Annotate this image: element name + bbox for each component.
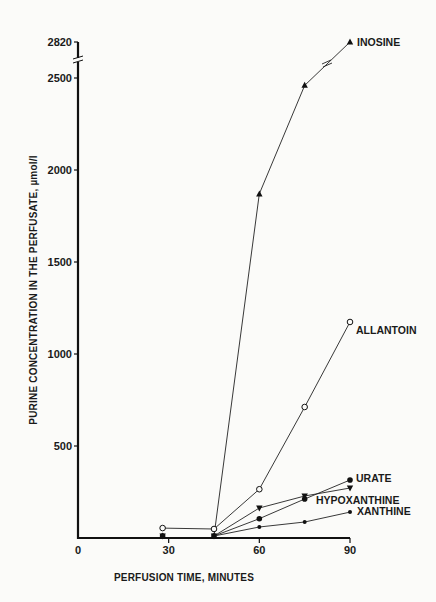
series-label-urate: URATE	[356, 472, 391, 484]
series-label-allantoin: ALLANTOIN	[356, 324, 416, 336]
y-tick-label: 2500	[48, 72, 72, 84]
x-tick-label: 90	[344, 544, 356, 556]
series-layer: INOSINEALLANTOINURATEHYPOXANTHINEXANTHIN…	[159, 36, 416, 540]
series-label-inosine: INOSINE	[357, 36, 400, 48]
series-label-xanthine: XANTHINE	[357, 505, 411, 517]
y-tick-label: 1500	[48, 256, 72, 268]
y-tick-label: 1000	[48, 348, 72, 360]
y-tick-label: 500	[54, 440, 72, 452]
y-axis: 50010001500200025002820	[48, 36, 83, 539]
x-axis: 0306090	[75, 538, 356, 556]
y-axis-title: PURINE CONCENTRATION IN THE PERFUSATE, µ…	[28, 155, 39, 424]
x-axis-title: PERFUSION TIME, MINUTES	[114, 572, 254, 583]
x-tick-label: 30	[163, 544, 175, 556]
series-xanthine: XANTHINE	[161, 505, 411, 538]
x-tick-label: 0	[75, 544, 81, 556]
y-tick-label: 2820	[48, 36, 72, 48]
y-tick-label: 2000	[48, 164, 72, 176]
series-inosine: INOSINE	[159, 36, 400, 539]
x-tick-label: 60	[253, 544, 265, 556]
purine-concentration-chart: 50010001500200025002820 0306090 INOSINEA…	[0, 0, 436, 602]
